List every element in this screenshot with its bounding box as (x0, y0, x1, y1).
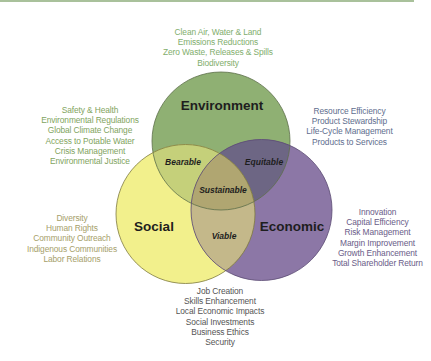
economic-issues-list: Innovation Capital Efficiency Risk Manag… (320, 207, 431, 268)
viable-label: Viable (212, 231, 237, 241)
economic-label: Economic (260, 219, 325, 234)
list-item: Labor Relations (17, 254, 127, 264)
list-item: Zero Waste, Releases & Spills (143, 47, 293, 57)
list-item: Access to Potable Water (20, 136, 160, 146)
list-item: Safety & Health (20, 105, 160, 115)
list-item: Emissions Reductions (143, 37, 293, 47)
list-item: Growth Enhancement (320, 248, 431, 258)
list-item: Skills Enhancement (150, 296, 290, 306)
list-item: Local Economic Impacts (150, 306, 290, 316)
list-item: Total Shareholder Return (320, 258, 431, 268)
social-label: Social (134, 219, 174, 234)
list-item: Job Creation (150, 286, 290, 296)
list-item: Diversity (17, 213, 127, 223)
list-item: Global Climate Change (20, 125, 160, 135)
list-item: Life-Cycle Management (292, 126, 407, 136)
list-item: Biodiversity (143, 58, 293, 68)
social-issues-list: Diversity Human Rights Community Outreac… (17, 213, 127, 264)
list-item: Business Ethics (150, 327, 290, 337)
environment-label: Environment (181, 98, 264, 113)
list-item: Indigenous Communities (17, 244, 127, 254)
list-item: Products to Services (292, 137, 407, 147)
equitable-label: Equitable (245, 157, 283, 167)
social-environment-issues-list: Safety & Health Environmental Regulation… (20, 105, 160, 166)
list-item: Clean Air, Water & Land (143, 27, 293, 37)
list-item: Margin Improvement (320, 238, 431, 248)
list-item: Resource Efficiency (292, 106, 407, 116)
list-item: Security (150, 337, 290, 347)
list-item: Innovation (320, 207, 431, 217)
list-item: Product Stewardship (292, 116, 407, 126)
list-item: Capital Efficiency (320, 217, 431, 227)
list-item: Social Investments (150, 317, 290, 327)
list-item: Community Outreach (17, 233, 127, 243)
list-item: Risk Management (320, 227, 431, 237)
list-item: Environmental Regulations (20, 115, 160, 125)
environment-issues-list: Clean Air, Water & Land Emissions Reduct… (143, 27, 293, 68)
sustainable-label: Sustainable (199, 185, 247, 195)
list-item: Human Rights (17, 223, 127, 233)
environment-economic-issues-list: Resource Efficiency Product Stewardship … (292, 106, 407, 147)
social-economic-issues-list: Job Creation Skills Enhancement Local Ec… (150, 286, 290, 347)
list-item: Crisis Management (20, 146, 160, 156)
list-item: Environmental Justice (20, 156, 160, 166)
bearable-label: Bearable (165, 157, 201, 167)
